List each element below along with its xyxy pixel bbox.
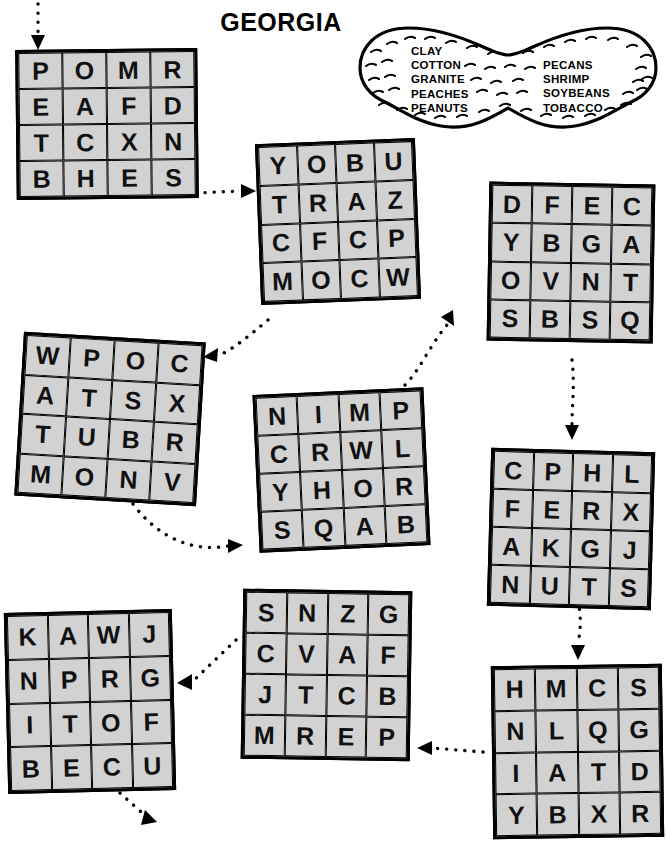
letter-cell[interactable]: T: [285, 674, 326, 716]
letter-cell[interactable]: N: [105, 458, 151, 500]
letter-cell[interactable]: E: [19, 88, 63, 124]
letter-cell[interactable]: E: [572, 186, 613, 225]
letter-cell[interactable]: C: [339, 259, 379, 299]
letter-cell[interactable]: B: [537, 793, 579, 835]
letter-cell[interactable]: B: [108, 419, 154, 461]
letter-cell[interactable]: S: [490, 299, 531, 338]
letter-cell[interactable]: E: [51, 745, 93, 790]
letter-cell[interactable]: C: [245, 633, 286, 675]
letter-grid-6[interactable]: CPHLFERXAKGJNUTS: [487, 448, 655, 611]
letter-cell[interactable]: O: [490, 261, 531, 300]
letter-cell[interactable]: V: [530, 262, 571, 301]
letter-cell[interactable]: J: [609, 530, 650, 569]
letter-cell[interactable]: Y: [258, 146, 298, 186]
letter-cell[interactable]: G: [571, 224, 612, 263]
letter-cell[interactable]: O: [61, 456, 107, 498]
letter-cell[interactable]: S: [608, 568, 649, 607]
letter-cell[interactable]: W: [88, 613, 130, 658]
letter-cell[interactable]: W: [378, 257, 418, 297]
letter-cell[interactable]: T: [19, 124, 63, 160]
letter-cell[interactable]: H: [572, 453, 613, 492]
letter-cell[interactable]: N: [8, 659, 50, 704]
letter-cell[interactable]: U: [64, 416, 110, 458]
letter-cell[interactable]: K: [7, 615, 49, 660]
letter-cell[interactable]: R: [571, 491, 612, 530]
letter-cell[interactable]: G: [618, 709, 660, 751]
letter-cell[interactable]: K: [530, 528, 571, 567]
letter-cell[interactable]: C: [257, 434, 300, 474]
letter-cell[interactable]: T: [569, 567, 610, 606]
letter-cell[interactable]: B: [10, 746, 52, 791]
letter-cell[interactable]: L: [536, 710, 578, 752]
letter-cell[interactable]: A: [47, 614, 89, 659]
letter-cell[interactable]: T: [578, 751, 620, 793]
letter-cell[interactable]: M: [263, 262, 303, 302]
letter-cell[interactable]: U: [132, 743, 174, 788]
letter-cell[interactable]: M: [338, 392, 381, 432]
letter-cell[interactable]: C: [261, 223, 301, 263]
letter-cell[interactable]: Z: [327, 593, 368, 635]
letter-cell[interactable]: E: [107, 160, 151, 196]
letter-cell[interactable]: C: [156, 343, 202, 385]
letter-cell[interactable]: A: [491, 527, 532, 566]
letter-cell[interactable]: S: [246, 592, 287, 634]
letter-cell[interactable]: J: [244, 674, 285, 716]
letter-cell[interactable]: Y: [496, 794, 538, 836]
letter-cell[interactable]: O: [342, 468, 385, 508]
letter-cell[interactable]: C: [91, 744, 133, 789]
letter-cell[interactable]: P: [366, 717, 407, 759]
letter-cell[interactable]: C: [63, 124, 107, 160]
letter-cell[interactable]: X: [610, 492, 651, 531]
letter-cell[interactable]: O: [90, 701, 132, 746]
letter-cell[interactable]: B: [335, 143, 375, 183]
letter-cell[interactable]: X: [154, 382, 200, 424]
letter-cell[interactable]: A: [327, 634, 368, 676]
letter-grid-8[interactable]: SNZGCVAFJTCBMREP: [241, 589, 413, 762]
letter-cell[interactable]: F: [130, 700, 172, 745]
letter-cell[interactable]: P: [68, 338, 114, 380]
letter-cell[interactable]: P: [18, 52, 62, 88]
letter-cell[interactable]: A: [343, 506, 386, 546]
letter-cell[interactable]: Q: [610, 301, 651, 340]
letter-cell[interactable]: X: [107, 124, 151, 160]
letter-cell[interactable]: A: [337, 181, 377, 221]
letter-cell[interactable]: R: [152, 422, 198, 464]
letter-cell[interactable]: U: [529, 566, 570, 605]
letter-cell[interactable]: N: [286, 592, 327, 634]
letter-cell[interactable]: L: [381, 428, 424, 468]
letter-cell[interactable]: V: [286, 633, 327, 675]
letter-cell[interactable]: N: [151, 123, 195, 159]
letter-cell[interactable]: W: [340, 430, 383, 470]
letter-cell[interactable]: O: [62, 52, 106, 88]
letter-cell[interactable]: S: [618, 667, 660, 709]
letter-cell[interactable]: O: [112, 340, 158, 382]
letter-grid-3[interactable]: DFECYBGAOVNTSBSQ: [487, 182, 656, 344]
letter-cell[interactable]: C: [576, 667, 618, 709]
letter-cell[interactable]: C: [326, 675, 367, 717]
letter-cell[interactable]: B: [531, 224, 572, 263]
letter-cell[interactable]: B: [384, 504, 427, 544]
letter-cell[interactable]: M: [106, 52, 150, 88]
letter-cell[interactable]: N: [570, 263, 611, 302]
letter-grid-1[interactable]: POMREAFDTCXNBHES: [15, 48, 199, 200]
letter-cell[interactable]: Q: [302, 508, 345, 548]
letter-cell[interactable]: P: [533, 452, 574, 491]
letter-grid-5[interactable]: NIMPCRWLYHORSQAB: [253, 387, 431, 553]
letter-grid-4[interactable]: WPOCATSXTUBRMONV: [14, 332, 205, 507]
letter-cell[interactable]: H: [494, 669, 536, 711]
letter-cell[interactable]: F: [532, 185, 573, 224]
letter-cell[interactable]: A: [63, 88, 107, 124]
letter-cell[interactable]: W: [24, 335, 70, 377]
letter-grid-7[interactable]: KAWJNPRGITOFBECU: [4, 609, 176, 794]
letter-cell[interactable]: Y: [491, 223, 532, 262]
letter-cell[interactable]: E: [532, 490, 573, 529]
letter-cell[interactable]: N: [490, 565, 531, 604]
letter-cell[interactable]: R: [299, 432, 342, 472]
letter-cell[interactable]: C: [493, 451, 534, 490]
letter-cell[interactable]: S: [261, 510, 304, 550]
letter-cell[interactable]: L: [612, 454, 653, 493]
letter-grid-2[interactable]: YOBUTRAZCFCPMOCW: [255, 138, 421, 305]
letter-cell[interactable]: Q: [577, 709, 619, 751]
letter-grid-9[interactable]: HMCSNLQGIATDYBXR: [491, 664, 664, 839]
letter-cell[interactable]: F: [367, 635, 408, 677]
